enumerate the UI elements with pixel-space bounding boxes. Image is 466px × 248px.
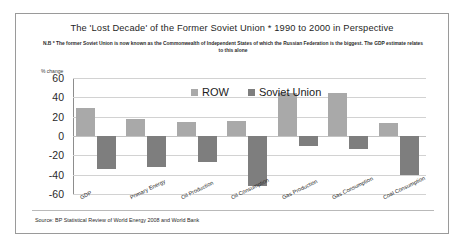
y-tick-20: 20 xyxy=(52,111,64,123)
legend-item: Soviet Union xyxy=(248,86,321,98)
y-axis-tick-labels: 6040200-20-40-60 xyxy=(28,78,64,194)
source-note: Source: BP Statistical Review of World E… xyxy=(35,217,199,223)
bar xyxy=(76,108,95,136)
legend-swatch-icon xyxy=(248,89,255,96)
chart-subtitle: N.B * The former Soviet Union is now kno… xyxy=(42,40,424,54)
y-tick-60: 60 xyxy=(52,72,64,84)
legend-label: Soviet Union xyxy=(259,86,321,98)
y-tick-40: 40 xyxy=(52,91,64,103)
chart-frame: The 'Lost Decade' of the Former Soviet U… xyxy=(15,13,449,234)
source-divider xyxy=(32,210,434,211)
bar-group xyxy=(73,78,123,194)
chart-legend: ROWSoviet Union xyxy=(191,86,321,98)
legend-item: ROW xyxy=(191,86,229,98)
bar-group xyxy=(123,78,173,194)
bar xyxy=(349,136,368,149)
y-tick-0: 0 xyxy=(58,130,64,142)
bar xyxy=(177,122,196,136)
legend-label: ROW xyxy=(202,86,229,98)
y-tick--20: -20 xyxy=(49,149,64,161)
bar xyxy=(400,136,419,175)
bar xyxy=(126,119,145,136)
y-tick--60: -60 xyxy=(49,188,64,200)
bar xyxy=(278,93,297,137)
y-tick--40: -40 xyxy=(49,169,64,181)
chart-title: The 'Lost Decade' of the Former Soviet U… xyxy=(16,23,448,33)
bar xyxy=(147,136,166,167)
bar xyxy=(97,136,116,169)
bar xyxy=(198,136,217,162)
bar xyxy=(227,121,246,136)
bar xyxy=(379,123,398,136)
bar xyxy=(299,136,318,146)
bar xyxy=(328,93,347,136)
legend-swatch-icon xyxy=(191,89,198,96)
